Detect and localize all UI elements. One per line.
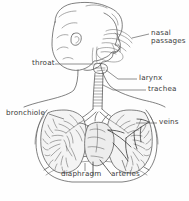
leader-larynx (106, 70, 137, 79)
label-diaphragm: diaphragm (61, 170, 101, 178)
label-bronchiole: bronchiole (6, 109, 45, 117)
label-veins: veins (159, 118, 179, 126)
head-profile-group (52, 2, 122, 70)
label-throat: throat (32, 59, 55, 67)
leader-nasal-passages (132, 34, 149, 38)
label-arteries: arteries (111, 170, 140, 178)
nasal-cavity-detail (92, 30, 132, 66)
left-lung (41, 110, 87, 173)
label-trachea: trachea (148, 85, 177, 93)
label-nasal-passages: nasal passages (151, 29, 189, 44)
trachea-tube (76, 73, 119, 122)
label-larynx: larynx (139, 74, 162, 82)
respiratory-system-diagram: nasal passages throat larynx trachea bro… (0, 0, 189, 201)
figure-caption (0, 192, 189, 201)
label-nasal-passages-line2: passages (151, 36, 186, 45)
